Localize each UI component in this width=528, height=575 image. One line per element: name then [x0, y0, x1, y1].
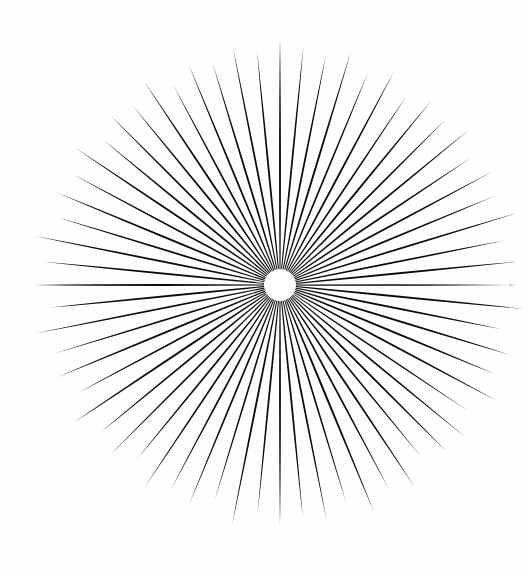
center-hub	[264, 269, 296, 301]
artboard: Starburst	[0, 0, 528, 575]
starburst-figure	[0, 0, 528, 575]
paper-background	[0, 0, 528, 575]
